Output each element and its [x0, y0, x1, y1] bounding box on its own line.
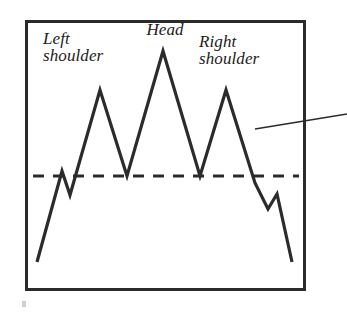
scan-speck — [22, 301, 26, 307]
label-head: Head — [128, 21, 202, 38]
label-right-shoulder: Right shoulder — [199, 33, 295, 68]
label-left-shoulder: Left shoulder — [43, 30, 135, 65]
figure-root: Left shoulder Head Right shoulder — [0, 0, 347, 315]
